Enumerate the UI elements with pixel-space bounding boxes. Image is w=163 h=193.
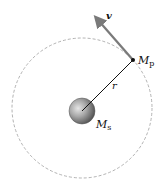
radius-label: r bbox=[112, 80, 118, 91]
planet-mass-label: Mp bbox=[137, 54, 154, 68]
diagram-canvas: v Mp r Ms bbox=[0, 0, 163, 193]
star-mass-label: Ms bbox=[95, 118, 111, 132]
velocity-arrow bbox=[98, 20, 133, 60]
velocity-label: v bbox=[106, 10, 112, 21]
radius-line bbox=[82, 60, 133, 111]
orbit-diagram: v Mp r Ms bbox=[0, 0, 163, 193]
planet-dot bbox=[131, 58, 135, 62]
